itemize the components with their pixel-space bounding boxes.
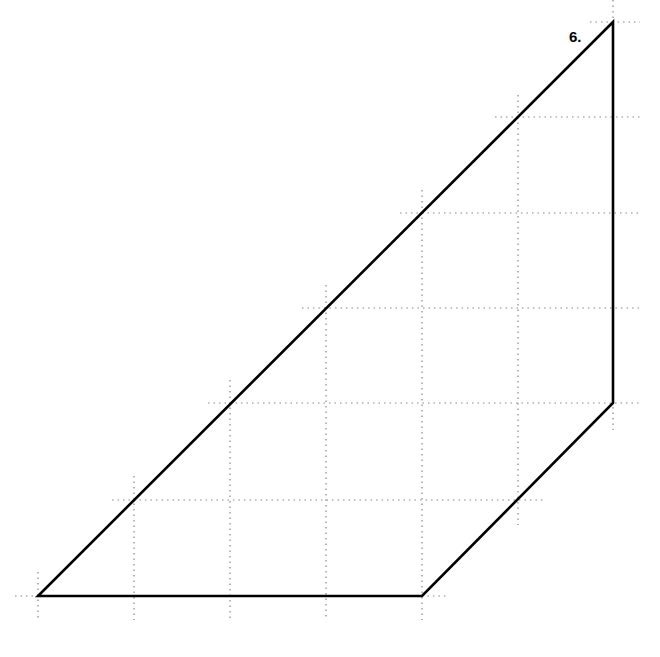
grid-diagram: [0, 0, 660, 657]
quadrilateral-shape: [38, 22, 613, 596]
geometry-figure: 6.: [0, 0, 660, 657]
figure-number-label: 6.: [569, 28, 582, 45]
